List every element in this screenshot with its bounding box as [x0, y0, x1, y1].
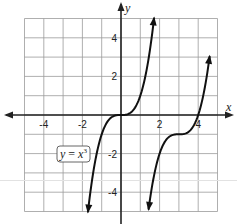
x-axis-left-arrow-icon [4, 112, 13, 119]
y-axis-label: y [124, 1, 131, 15]
curve-1-end-arrow-icon [150, 17, 157, 26]
y-tick-label: -2 [108, 149, 117, 160]
x-axis-label: x [225, 100, 232, 114]
y-tick-label: 4 [111, 33, 117, 44]
x-tick-label: 2 [157, 119, 163, 130]
equation-label: y = x3 [57, 146, 90, 162]
curve-1-start-arrow-icon [85, 204, 92, 213]
x-tick-label: -2 [78, 119, 87, 130]
curve-2-end-arrow-icon [205, 55, 212, 64]
y-tick-label: -4 [108, 187, 117, 198]
equation-text: y = x3 [59, 147, 87, 161]
x-tick-label: -4 [39, 119, 48, 130]
y-tick-label: 2 [111, 71, 117, 82]
y-axis-up-arrow-icon [118, 2, 125, 11]
curve-2-start-arrow-icon [146, 202, 153, 211]
cubic-graph: y x -4-22442-2-4 y = x3 [0, 0, 237, 224]
